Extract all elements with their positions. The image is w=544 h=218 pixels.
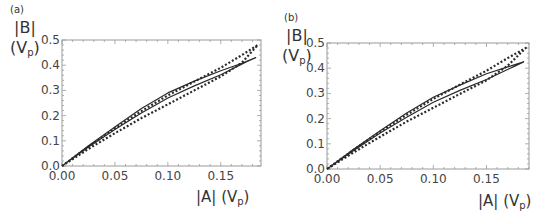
x-tick-label: 0.15 — [473, 172, 500, 186]
dotted-loop-series — [62, 45, 258, 166]
y-tick-label: 0.5 — [306, 36, 325, 50]
y-tick-label: 0.4 — [41, 58, 60, 72]
plot-area: 0.000.050.100.150.00.10.20.30.40.5 — [0, 0, 272, 218]
plot-frame — [327, 43, 529, 169]
panel-b: (b) |B| (Vp) |A| (Vp) 0.000.050.100.150.… — [272, 0, 544, 218]
x-tick-label: 0.05 — [367, 172, 394, 186]
plot-area: 0.000.050.100.150.00.10.20.30.40.5 — [272, 0, 544, 218]
x-tick-label: 0.10 — [154, 169, 181, 183]
solid-loop-series — [327, 62, 524, 169]
y-tick-label: 0.0 — [306, 162, 325, 176]
y-tick-label: 0.3 — [306, 86, 325, 100]
x-tick-label: 0.15 — [207, 169, 234, 183]
dotted-loop-series — [327, 48, 526, 169]
y-tick-label: 0.5 — [41, 33, 60, 47]
plot-frame — [62, 40, 261, 166]
y-tick-label: 0.2 — [306, 112, 325, 126]
x-tick-label: 0.05 — [102, 169, 129, 183]
y-tick-label: 0.1 — [306, 137, 325, 151]
x-tick-label: 0.10 — [420, 172, 447, 186]
panel-a: (a) |B| (Vp) |A| (Vp) 0.000.050.100.150.… — [0, 0, 272, 218]
y-tick-label: 0.1 — [41, 134, 60, 148]
y-tick-label: 0.0 — [41, 159, 60, 173]
y-tick-label: 0.2 — [41, 109, 60, 123]
y-tick-label: 0.4 — [306, 61, 325, 75]
y-tick-label: 0.3 — [41, 83, 60, 97]
